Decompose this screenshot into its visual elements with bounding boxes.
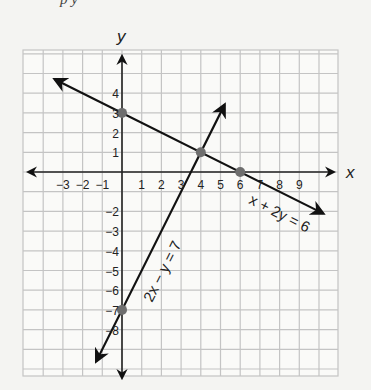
x-tick-label: 6 (237, 178, 244, 192)
x-tick-label: 3 (178, 178, 185, 192)
x-tick-label: 2 (158, 178, 165, 192)
y-tick-label: −4 (105, 245, 119, 259)
coordinate-graph: xy x + 2y = 62x − y = 7 −3−2−11234567894… (0, 0, 371, 390)
x-tick-label: 5 (217, 178, 224, 192)
x-tick-label: 8 (276, 178, 283, 192)
x-tick-label: 1 (138, 178, 145, 192)
x-tick-label: −1 (95, 178, 109, 192)
data-point (196, 147, 206, 157)
y-tick-label: 1 (112, 146, 119, 160)
x-tick-label: 9 (296, 178, 303, 192)
y-tick-label: 4 (112, 87, 119, 101)
y-tick-label: 2 (112, 127, 119, 141)
x-axis-label: x (345, 163, 355, 182)
y-tick-label: 3 (112, 107, 119, 121)
y-axis-label: y (116, 27, 127, 46)
y-tick-label: −2 (105, 205, 119, 219)
x-tick-label: −2 (76, 178, 90, 192)
y-tick-label: −8 (105, 324, 119, 338)
y-tick-label: −7 (105, 304, 119, 318)
y-tick-label: −5 (105, 265, 119, 279)
x-tick-label: 7 (257, 178, 264, 192)
data-point (235, 167, 245, 177)
y-tick-label: −6 (105, 284, 119, 298)
x-tick-label: −3 (56, 178, 70, 192)
y-tick-label: −3 (105, 225, 119, 239)
x-tick-label: 4 (197, 178, 204, 192)
